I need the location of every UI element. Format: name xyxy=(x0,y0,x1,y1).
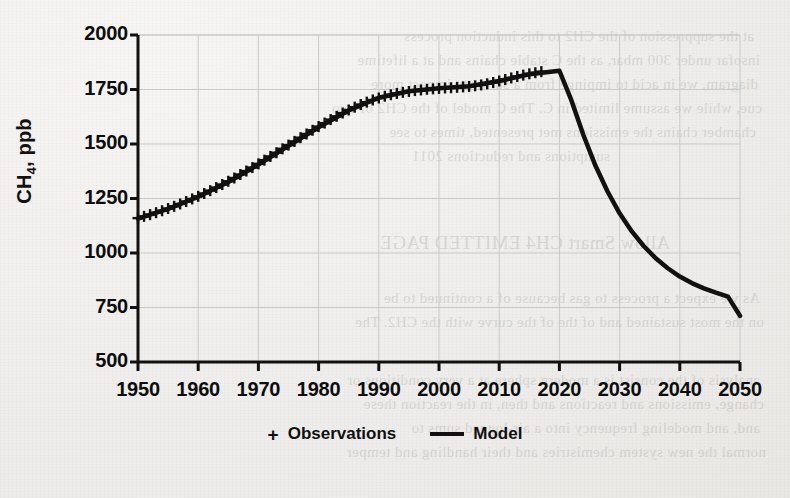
line-marker-icon xyxy=(430,432,464,436)
y-tick-1750: 1750 xyxy=(52,77,128,100)
x-tick-2050: 2050 xyxy=(709,378,771,401)
chart-axes xyxy=(130,35,740,371)
y-tick-1500: 1500 xyxy=(52,131,128,154)
legend-label-observations: Observations xyxy=(288,424,397,444)
x-tick-1950: 1950 xyxy=(107,378,169,401)
y-axis-title-sub: 4 xyxy=(24,167,39,174)
legend-item-observations: + Observations xyxy=(268,424,397,444)
x-tick-2020: 2020 xyxy=(528,378,590,401)
y-tick-1000: 1000 xyxy=(52,240,128,263)
y-axis-title-suffix: , ppb xyxy=(13,118,35,167)
x-tick-2000: 2000 xyxy=(408,378,470,401)
x-tick-1960: 1960 xyxy=(167,378,229,401)
plus-marker-icon: + xyxy=(268,425,279,444)
x-tick-2010: 2010 xyxy=(468,378,530,401)
y-axis-title: CH4, ppb xyxy=(13,86,39,236)
x-tick-2040: 2040 xyxy=(649,378,711,401)
y-axis-title-text: CH xyxy=(13,174,35,203)
x-tick-1990: 1990 xyxy=(348,378,410,401)
x-tick-2030: 2030 xyxy=(589,378,651,401)
x-tick-1970: 1970 xyxy=(227,378,289,401)
legend-label-model: Model xyxy=(473,424,522,444)
legend-item-model: Model xyxy=(430,424,522,444)
y-tick-2000: 2000 xyxy=(52,22,128,45)
y-tick-1250: 1250 xyxy=(52,186,128,209)
y-tick-750: 750 xyxy=(52,295,128,318)
x-tick-1980: 1980 xyxy=(288,378,350,401)
chart-figure: CH4, ppb 50075010001250150017502000 1950… xyxy=(0,0,790,498)
chart-legend: + Observations Model xyxy=(0,424,790,444)
y-tick-500: 500 xyxy=(52,349,128,372)
